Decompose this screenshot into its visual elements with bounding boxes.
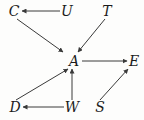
node-label-d: D xyxy=(9,100,20,114)
node-label-e: E xyxy=(129,54,139,68)
node-label-a: A xyxy=(69,54,79,68)
node-label-u: U xyxy=(61,4,73,18)
node-label-s: S xyxy=(95,100,105,114)
edge-d-to-a xyxy=(16,69,68,100)
edge-s-to-e xyxy=(100,69,128,100)
edge-c-to-a xyxy=(17,19,63,52)
node-label-t: T xyxy=(102,4,111,18)
edge-t-to-a xyxy=(78,19,105,52)
node-label-c: C xyxy=(9,4,20,18)
node-label-w: W xyxy=(65,100,79,114)
directed-graph-diagram: CUTAEDWS xyxy=(0,0,144,120)
